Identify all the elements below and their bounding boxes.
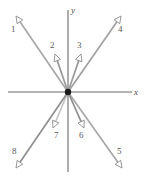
vector-8-shaft (18, 92, 68, 164)
vector-2-shaft (56, 58, 68, 92)
vector-1-arrowhead-icon (16, 16, 23, 24)
diagram-canvas (0, 0, 147, 181)
vector-6-arrowhead-icon (78, 120, 84, 128)
vector-label-5: 5 (117, 147, 122, 156)
y-axis-label: y (71, 6, 75, 15)
vector-3-shaft (68, 58, 80, 92)
vector-5-arrowhead-icon (115, 160, 122, 168)
vector-3 (68, 54, 82, 92)
x-axis-label: x (134, 88, 138, 97)
vector-label-3: 3 (77, 41, 82, 50)
vector-1 (16, 16, 68, 92)
vector-2 (54, 54, 68, 92)
origin-dot (65, 89, 71, 95)
vector-3-arrowhead-icon (76, 54, 82, 62)
vector-8 (16, 92, 68, 168)
vector-label-1: 1 (11, 25, 16, 34)
vector-5 (68, 92, 122, 168)
vector-label-2: 2 (50, 41, 55, 50)
vector-4-arrowhead-icon (114, 16, 121, 24)
vector-label-8: 8 (12, 147, 17, 156)
vector-label-4: 4 (118, 25, 123, 34)
vector-diagram: 12345678xy (0, 0, 147, 181)
vector-5-shaft (68, 92, 119, 164)
vector-4-shaft (68, 20, 119, 92)
vector-label-7: 7 (54, 131, 59, 140)
vector-2-arrowhead-icon (54, 54, 60, 62)
vector-7-arrowhead-icon (53, 120, 59, 128)
vector-8-arrowhead-icon (16, 160, 23, 168)
vector-label-6: 6 (79, 131, 84, 140)
vector-4 (68, 16, 121, 92)
vector-1-shaft (18, 20, 68, 92)
